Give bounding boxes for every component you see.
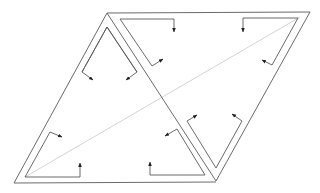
- flow-arrow-right-tri-top-left: [120, 19, 174, 32]
- parallelogram-flow-diagram: [0, 0, 320, 193]
- flow-arrow-left-tri-left-lower: [25, 132, 62, 177]
- diagonal-line: [25, 17, 300, 177]
- flow-arrow-left-tri-top-right: [107, 27, 137, 80]
- flow-arrow-right-tri-v-left: [187, 115, 216, 168]
- flow-arrow-left-tri-bottom-left: [25, 163, 80, 177]
- edge-dc: [14, 182, 216, 183]
- flow-arrow-right-tri-top-right: [243, 18, 298, 32]
- left-triangle-inner-peak: [82, 27, 137, 72]
- edge-ad: [14, 13, 107, 183]
- flow-arrow-left-tri-bottom-right: [150, 162, 205, 175]
- flow-arrow-left-tri-right-lower: [165, 129, 205, 175]
- edge-ac: [107, 13, 216, 181]
- faint-diagonal-line: [25, 17, 300, 177]
- diagram-canvas: Parallelogram split into two triangles w…: [0, 0, 320, 193]
- edge-bc: [216, 12, 310, 181]
- flow-arrow-right-tri-right-leg: [262, 18, 298, 65]
- edge-ab: [107, 12, 310, 13]
